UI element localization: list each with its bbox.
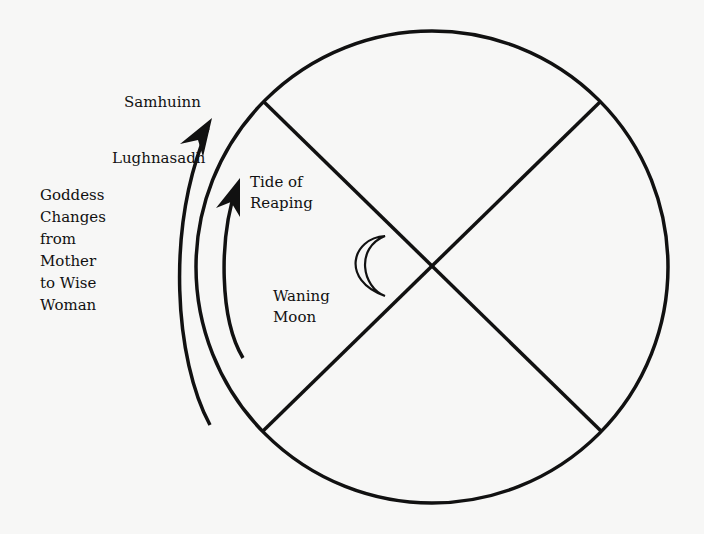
moon-label: Waning Moon [273, 286, 330, 328]
lughnasadh-label: Lughnasadh [112, 148, 205, 169]
samhuinn-label: Samhuinn [124, 92, 201, 113]
tide-label: Tide of Reaping [250, 172, 313, 214]
inner-arrow [216, 178, 243, 358]
crescent-moon-icon [356, 236, 385, 296]
goddess-label: Goddess Changes from Mother to Wise Woma… [40, 184, 106, 316]
